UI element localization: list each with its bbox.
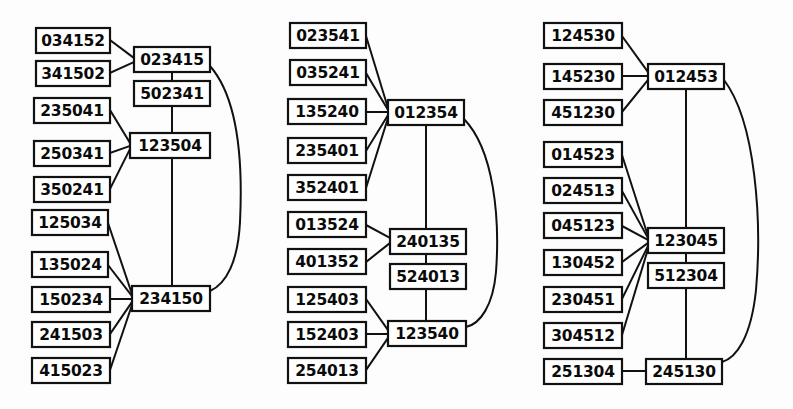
node-524013-label: 524013: [396, 268, 460, 286]
node-235041[interactable]: 235041: [34, 98, 110, 123]
panel-left-leaf-nodes: 034152 341502 235041 250341 350241: [32, 28, 110, 383]
node-250341-label: 250341: [40, 145, 104, 163]
node-350241[interactable]: 350241: [34, 177, 110, 202]
node-350241-label: 350241: [40, 181, 104, 199]
node-502341-label: 502341: [140, 85, 204, 103]
edge-M7-N2: [366, 243, 390, 262]
node-251304[interactable]: 251304: [544, 359, 622, 384]
edge-R4-S2: [622, 155, 648, 236]
node-035241-label: 035241: [296, 64, 360, 82]
panel-middle: 023541 035241 135240 235401 352401: [288, 23, 497, 383]
node-023415-label: 023415: [140, 51, 204, 69]
node-124530[interactable]: 124530: [544, 23, 622, 48]
node-014523-label: 014523: [551, 146, 615, 164]
node-024513[interactable]: 024513: [544, 178, 622, 203]
node-245130-label: 245130: [652, 363, 716, 381]
node-145230[interactable]: 145230: [544, 64, 622, 89]
node-125034-label: 125034: [38, 214, 102, 232]
edge-R3-S1: [622, 80, 648, 112]
node-304512-label: 304512: [551, 327, 615, 345]
node-512304[interactable]: 512304: [648, 263, 724, 288]
edge-L9-H4: [110, 302, 132, 334]
node-304512[interactable]: 304512: [544, 323, 622, 348]
node-524013[interactable]: 524013: [390, 264, 466, 289]
node-230451[interactable]: 230451: [544, 287, 622, 312]
node-012354[interactable]: 012354: [388, 100, 464, 125]
node-125403[interactable]: 125403: [288, 287, 366, 312]
node-012354-label: 012354: [394, 104, 458, 122]
panel-right: 124530 145230 451230 014523 024513: [544, 23, 758, 384]
edge-M5-N1: [366, 118, 388, 188]
node-023415[interactable]: 023415: [134, 47, 210, 72]
node-135024[interactable]: 135024: [32, 252, 108, 277]
node-451230-label: 451230: [551, 104, 615, 122]
node-123504-label: 123504: [138, 137, 202, 155]
node-234150[interactable]: 234150: [132, 286, 210, 311]
node-135240-label: 135240: [295, 103, 359, 121]
node-135240[interactable]: 135240: [288, 99, 366, 124]
node-123504[interactable]: 123504: [130, 133, 210, 158]
panel-left-hub-nodes: 023415 502341 123504 234150: [130, 47, 210, 311]
node-045123-label: 045123: [551, 217, 615, 235]
node-415023-label: 415023: [39, 362, 103, 380]
node-250341[interactable]: 250341: [34, 141, 110, 166]
node-245130[interactable]: 245130: [646, 359, 722, 384]
diagram-canvas: 034152 341502 235041 250341 350241: [0, 0, 793, 409]
node-254013[interactable]: 254013: [288, 358, 366, 383]
node-502341[interactable]: 502341: [134, 81, 210, 106]
node-451230[interactable]: 451230: [544, 100, 622, 125]
edge-L6-H4: [108, 223, 132, 294]
panel-middle-leaf-nodes: 023541 035241 135240 235401 352401: [288, 23, 366, 383]
node-415023[interactable]: 415023: [32, 358, 110, 383]
node-235401[interactable]: 235401: [288, 138, 366, 163]
edge-L5-H3: [110, 149, 130, 189]
node-012453[interactable]: 012453: [648, 64, 724, 89]
node-123045[interactable]: 123045: [648, 228, 724, 253]
node-251304-label: 251304: [551, 363, 615, 381]
node-150234-label: 150234: [39, 291, 103, 309]
node-341502[interactable]: 341502: [36, 61, 110, 86]
node-023541[interactable]: 023541: [290, 23, 366, 48]
edge-L3-H3: [110, 110, 130, 143]
node-401352-label: 401352: [295, 253, 359, 271]
node-123045-label: 123045: [654, 232, 718, 250]
node-152403-label: 152403: [295, 326, 359, 344]
node-124530-label: 124530: [551, 27, 615, 45]
node-123540[interactable]: 123540: [388, 321, 466, 346]
node-013524-label: 013524: [295, 216, 359, 234]
edge-M8-N4: [366, 299, 388, 330]
node-013524[interactable]: 013524: [288, 212, 366, 237]
node-152403[interactable]: 152403: [288, 322, 366, 347]
node-145230-label: 145230: [551, 68, 615, 86]
node-034152[interactable]: 034152: [36, 28, 110, 53]
node-123540-label: 123540: [395, 325, 459, 343]
node-352401-label: 352401: [295, 179, 359, 197]
edge-R1-S1: [622, 36, 648, 72]
node-352401[interactable]: 352401: [288, 175, 366, 200]
node-241503[interactable]: 241503: [32, 322, 110, 347]
edge-L4-H3: [110, 146, 130, 153]
node-125034[interactable]: 125034: [32, 210, 108, 235]
edge-M10-N4: [366, 338, 388, 370]
panel-right-leaf-nodes: 124530 145230 451230 014523 024513: [544, 23, 622, 384]
node-235401-label: 235401: [295, 142, 359, 160]
node-240135[interactable]: 240135: [390, 229, 466, 254]
node-035241[interactable]: 035241: [290, 60, 366, 85]
permutation-diagram-figure: 034152 341502 235041 250341 350241: [0, 0, 793, 409]
node-045123[interactable]: 045123: [544, 213, 622, 238]
arc-N1-N4: [464, 119, 497, 327]
arc-H1-H4: [210, 66, 241, 291]
node-130452[interactable]: 130452: [544, 250, 622, 275]
node-135024-label: 135024: [38, 256, 102, 274]
node-401352[interactable]: 401352: [288, 249, 366, 274]
edge-M4-N1: [366, 115, 388, 151]
node-150234[interactable]: 150234: [32, 287, 110, 312]
node-254013-label: 254013: [295, 362, 359, 380]
node-130452-label: 130452: [551, 254, 615, 272]
edge-L1-H1: [110, 40, 134, 58]
edge-M1-N1: [366, 36, 388, 108]
node-341502-label: 341502: [41, 65, 105, 83]
node-014523[interactable]: 014523: [544, 142, 622, 167]
node-240135-label: 240135: [396, 233, 460, 251]
node-125403-label: 125403: [295, 291, 359, 309]
